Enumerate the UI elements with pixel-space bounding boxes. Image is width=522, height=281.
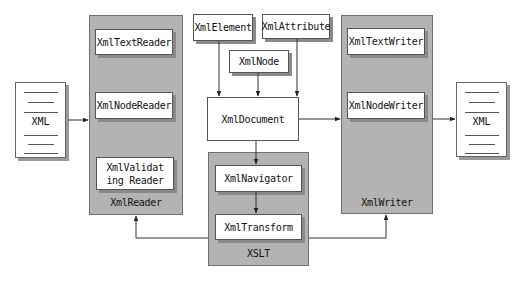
connector-arrows: [0, 0, 522, 281]
